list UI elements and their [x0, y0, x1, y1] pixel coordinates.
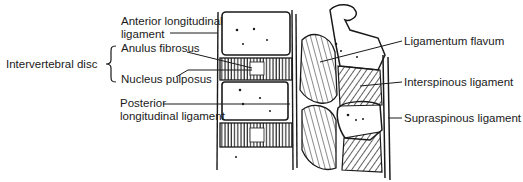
spine-illustration — [0, 0, 523, 182]
label-intervertebral-disc: Intervertebral disc — [6, 58, 97, 71]
brace-icon — [106, 46, 116, 82]
label-anterior-longitudinal-ligament-line2: ligament — [121, 28, 164, 41]
label-anterior-longitudinal-ligament-line1: Anterior longitudinal — [121, 15, 223, 28]
label-interspinous-ligament: Interspinous ligament — [404, 76, 513, 89]
label-posterior-longitudinal-ligament-line1: Posterior — [120, 97, 166, 110]
spine-ligament-diagram: Anterior longitudinal ligament Intervert… — [0, 0, 523, 182]
label-ligamentum-flavum: Ligamentum flavum — [404, 35, 504, 48]
label-supraspinous-ligament: Supraspinous ligament — [404, 112, 521, 125]
label-anulus-fibrosus: Anulus fibrosus — [121, 42, 200, 55]
label-nucleus-pulposus: Nucleus pulposus — [121, 73, 212, 86]
label-posterior-longitudinal-ligament-line2: longitudinal ligament — [120, 110, 225, 123]
